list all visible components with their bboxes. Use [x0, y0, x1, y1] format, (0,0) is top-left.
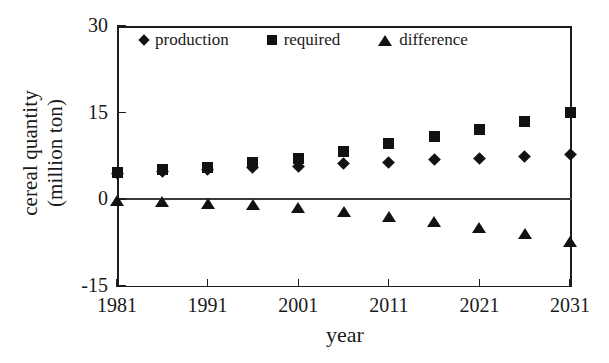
legend-marker	[378, 35, 392, 46]
chart-legend: productionrequireddifference	[140, 28, 560, 52]
square-marker-icon	[565, 107, 576, 118]
x-tick	[569, 279, 570, 287]
x-axis-title: year	[110, 322, 580, 348]
diamond-marker-icon	[564, 148, 577, 161]
data-point	[565, 107, 576, 118]
data-point	[427, 216, 441, 227]
data-point	[112, 167, 123, 178]
legend-item-production: production	[140, 30, 229, 50]
data-point	[338, 146, 349, 157]
legend-label: required	[284, 30, 341, 50]
x-tick	[479, 279, 480, 287]
diamond-marker-icon	[138, 34, 149, 45]
y-tick	[117, 112, 126, 113]
legend-marker	[140, 36, 148, 44]
triangle-marker-icon	[337, 206, 351, 217]
y-tick-label: 30	[50, 14, 108, 37]
data-point	[157, 164, 168, 175]
square-marker-icon	[383, 138, 394, 149]
y-tick	[117, 285, 126, 286]
data-point	[293, 153, 304, 164]
square-marker-icon	[247, 157, 258, 168]
data-point	[563, 236, 577, 247]
triangle-marker-icon	[472, 222, 486, 233]
x-tick-label: 2021	[439, 294, 519, 317]
y-axis-title-line1: cereal quantity	[18, 28, 43, 278]
square-marker-icon	[267, 35, 277, 45]
data-point	[430, 155, 439, 164]
diamond-marker-icon	[382, 156, 395, 169]
data-point	[291, 202, 305, 213]
chart-figure: cereal quantity (million ton) year -1501…	[0, 0, 609, 363]
diamond-marker-icon	[518, 150, 531, 163]
legend-marker	[267, 35, 277, 45]
y-tick-label: 0	[50, 187, 108, 210]
x-tick	[298, 279, 299, 287]
x-tick-label: 2011	[349, 294, 429, 317]
x-tick-label: 1981	[77, 294, 157, 317]
triangle-marker-icon	[155, 196, 169, 207]
triangle-marker-icon	[246, 199, 260, 210]
data-point	[339, 159, 348, 168]
y-tick	[117, 25, 126, 26]
legend-item-required: required	[267, 30, 341, 50]
triangle-marker-icon	[563, 236, 577, 247]
data-point	[383, 138, 394, 149]
data-point	[337, 206, 351, 217]
y-tick-label: 15	[50, 101, 108, 124]
square-marker-icon	[202, 162, 213, 173]
data-point	[110, 195, 124, 206]
y-axis-title: cereal quantity (million ton)	[18, 28, 68, 278]
triangle-marker-icon	[518, 228, 532, 239]
data-point	[475, 154, 484, 163]
diamond-marker-icon	[428, 153, 441, 166]
plot-area	[117, 26, 572, 287]
y-axis-title-line2: (million ton)	[43, 28, 68, 278]
data-point	[202, 162, 213, 173]
x-tick-label: 2031	[530, 294, 609, 317]
x-tick	[207, 279, 208, 287]
square-marker-icon	[429, 131, 440, 142]
data-point	[247, 157, 258, 168]
data-point	[472, 222, 486, 233]
data-point	[566, 150, 575, 159]
square-marker-icon	[157, 164, 168, 175]
data-point	[382, 211, 396, 222]
square-marker-icon	[519, 116, 530, 127]
triangle-marker-icon	[201, 198, 215, 209]
legend-label: production	[155, 30, 229, 50]
diamond-marker-icon	[337, 157, 350, 170]
square-marker-icon	[112, 167, 123, 178]
square-marker-icon	[474, 124, 485, 135]
legend-item-difference: difference	[378, 30, 468, 50]
data-point	[474, 124, 485, 135]
y-axis-line	[117, 26, 119, 287]
triangle-marker-icon	[427, 216, 441, 227]
data-point	[201, 198, 215, 209]
square-marker-icon	[293, 153, 304, 164]
data-point	[520, 152, 529, 161]
data-point	[519, 116, 530, 127]
data-point	[518, 228, 532, 239]
diamond-marker-icon	[473, 152, 486, 165]
data-point	[155, 196, 169, 207]
triangle-marker-icon	[378, 35, 392, 46]
triangle-marker-icon	[110, 195, 124, 206]
square-marker-icon	[338, 146, 349, 157]
x-axis-line	[117, 286, 572, 288]
data-point	[384, 158, 393, 167]
x-tick	[388, 279, 389, 287]
data-point	[429, 131, 440, 142]
triangle-marker-icon	[291, 202, 305, 213]
triangle-marker-icon	[382, 211, 396, 222]
x-tick-label: 2001	[258, 294, 338, 317]
legend-label: difference	[399, 30, 468, 50]
data-point	[246, 199, 260, 210]
x-tick-label: 1991	[168, 294, 248, 317]
zero-reference-line	[117, 198, 572, 199]
